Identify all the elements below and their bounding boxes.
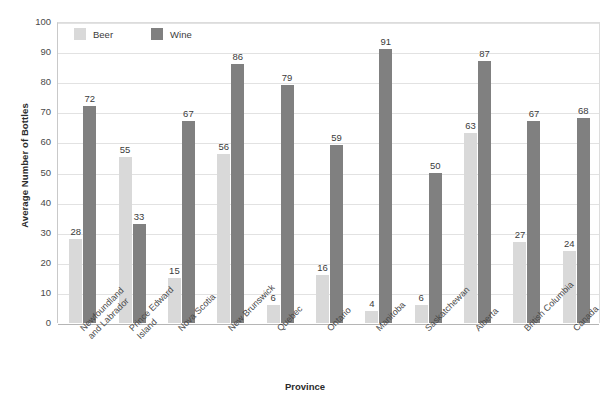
plot-area: 2872553315675686679165949165063872767246… (57, 22, 600, 323)
bar-value-label: 6 (419, 292, 424, 303)
bar-group: 650 (404, 23, 453, 323)
bar-value-label: 67 (183, 108, 194, 119)
bar-group: 2872 (58, 23, 107, 323)
bar-wine[interactable]: 59 (330, 145, 343, 323)
bar-group: 6387 (453, 23, 502, 323)
bar-wine[interactable]: 50 (429, 173, 442, 324)
bar-wine[interactable]: 86 (231, 64, 244, 323)
bar-group: 679 (255, 23, 304, 323)
bar-wine[interactable]: 87 (478, 61, 491, 323)
bar-beer[interactable]: 27 (513, 242, 526, 323)
bar-chart: Average Number of Bottles 01020304050607… (0, 0, 610, 413)
bar-group: 491 (354, 23, 403, 323)
bar-value-label: 28 (70, 226, 81, 237)
y-tick-label-30: 30 (9, 228, 51, 238)
bar-value-label: 91 (381, 36, 392, 47)
legend-swatch-beer-icon (74, 28, 86, 40)
bar-group: 5686 (206, 23, 255, 323)
bar-beer[interactable]: 28 (69, 239, 82, 323)
legend-item-wine[interactable]: Wine (151, 28, 192, 40)
legend: BeerWine (74, 28, 192, 40)
bar-beer[interactable]: 6 (267, 305, 280, 323)
x-axis-tick-labels: Newfoundlandand LabradorPrince EdwardIsl… (0, 326, 610, 386)
y-tick-label-80: 80 (9, 77, 51, 87)
bar-value-label: 67 (529, 108, 540, 119)
bar-group: 2468 (552, 23, 601, 323)
bar-value-label: 33 (134, 211, 145, 222)
y-tick-label-50: 50 (9, 168, 51, 178)
y-tick-label-40: 40 (9, 198, 51, 208)
legend-label: Wine (170, 29, 192, 40)
y-axis-title: Average Number of Bottles (19, 56, 30, 276)
bar-group: 2767 (502, 23, 551, 323)
bar-value-label: 16 (317, 262, 328, 273)
bar-wine[interactable]: 67 (527, 121, 540, 323)
bar-beer[interactable]: 16 (316, 275, 329, 323)
y-tick-label-90: 90 (9, 47, 51, 57)
bar-value-label: 27 (515, 229, 526, 240)
bar-beer[interactable]: 6 (415, 305, 428, 323)
bar-wine[interactable]: 67 (182, 121, 195, 323)
bar-value-label: 79 (282, 72, 293, 83)
x-axis-title: Province (0, 381, 610, 392)
y-tick-label-20: 20 (9, 258, 51, 268)
bar-value-label: 15 (169, 265, 180, 276)
bar-wine[interactable]: 79 (281, 85, 294, 323)
bar-wine[interactable]: 72 (83, 106, 96, 323)
legend-item-beer[interactable]: Beer (74, 28, 113, 40)
bar-group: 1567 (157, 23, 206, 323)
bar-beer[interactable]: 4 (365, 311, 378, 323)
bar-value-label: 87 (479, 48, 490, 59)
bar-beer[interactable]: 56 (217, 154, 230, 323)
bar-wine[interactable]: 91 (379, 49, 392, 323)
bar-value-label: 55 (120, 144, 131, 155)
y-tick-label-10: 10 (9, 288, 51, 298)
legend-label: Beer (93, 29, 113, 40)
bar-value-label: 56 (218, 141, 229, 152)
bars-layer: 2872553315675686679165949165063872767246… (58, 23, 599, 323)
legend-swatch-wine-icon (151, 28, 163, 40)
bar-value-label: 50 (430, 160, 441, 171)
y-tick-label-60: 60 (9, 137, 51, 147)
bar-value-label: 24 (564, 238, 575, 249)
bar-value-label: 59 (331, 132, 342, 143)
bar-value-label: 72 (84, 93, 95, 104)
bar-wine[interactable]: 68 (577, 118, 590, 323)
bar-group: 5533 (107, 23, 156, 323)
bar-value-label: 4 (369, 298, 374, 309)
bar-value-label: 63 (465, 120, 476, 131)
bar-value-label: 86 (232, 51, 243, 62)
bar-group: 1659 (305, 23, 354, 323)
y-tick-label-70: 70 (9, 107, 51, 117)
y-tick-label-100: 100 (9, 17, 51, 27)
bar-value-label: 68 (578, 105, 589, 116)
